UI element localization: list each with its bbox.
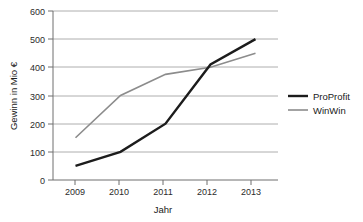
legend-label-proprofit: ProProfit xyxy=(313,91,350,102)
y-tick-label-200: 200 xyxy=(30,120,45,130)
x-tick-label-2011: 2011 xyxy=(153,187,172,197)
y-tick-label-300: 300 xyxy=(30,92,45,102)
legend-label-winwin: WinWin xyxy=(313,105,346,116)
chart-background xyxy=(0,0,363,222)
x-tick-label-2013: 2013 xyxy=(241,187,261,197)
chart-canvas: 600 500 400 300 200 100 0 2009 2010 2011… xyxy=(0,0,363,222)
x-tick-label-2012: 2012 xyxy=(197,187,217,197)
line-chart: 600 500 400 300 200 100 0 2009 2010 2011… xyxy=(0,0,363,222)
y-tick-label-600: 600 xyxy=(30,7,45,17)
y-axis-title: Gewinn in Mio € xyxy=(8,61,19,130)
x-tick-label-2009: 2009 xyxy=(65,187,85,197)
y-tick-label-400: 400 xyxy=(30,63,45,73)
y-tick-label-500: 500 xyxy=(30,35,45,45)
x-tick-label-2010: 2010 xyxy=(109,187,129,197)
y-tick-label-0: 0 xyxy=(40,176,45,186)
x-axis-title: Jahr xyxy=(154,204,172,215)
y-tick-label-100: 100 xyxy=(30,148,45,158)
